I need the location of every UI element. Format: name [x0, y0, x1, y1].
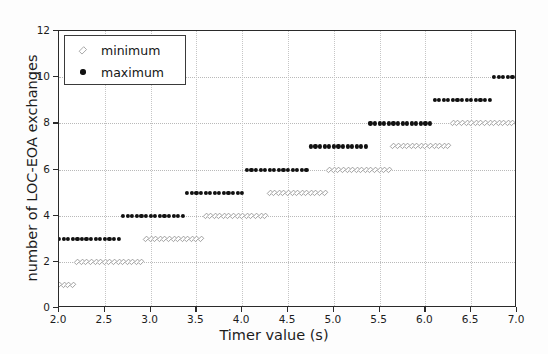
data-point-maximum	[309, 144, 313, 148]
x-axis-tick	[470, 307, 471, 312]
data-point-minimum	[385, 166, 392, 173]
data-point-maximum	[405, 121, 409, 125]
y-axis-tick	[53, 169, 58, 170]
y-axis-tick	[53, 261, 58, 262]
data-point-minimum	[321, 189, 328, 196]
data-point-maximum	[75, 237, 79, 241]
data-point-maximum	[323, 144, 327, 148]
data-point-maximum	[103, 237, 107, 241]
y-axis-tick-label: 6	[20, 163, 50, 175]
data-point-maximum	[497, 75, 501, 79]
chart-figure: minimum maximum Timer value (s) number o…	[0, 0, 548, 354]
x-axis-tick	[104, 307, 105, 312]
data-point-maximum	[378, 121, 382, 125]
data-point-maximum	[158, 214, 162, 218]
data-point-maximum	[71, 237, 75, 241]
data-point-maximum	[199, 190, 203, 194]
y-axis-tick-label: 4	[20, 209, 50, 221]
data-point-maximum	[474, 98, 478, 102]
gridline-horizontal	[59, 123, 515, 124]
x-axis-tick-label: 5.5	[370, 313, 387, 325]
data-point-maximum	[428, 121, 432, 125]
y-axis-tick	[53, 307, 58, 308]
data-point-maximum	[327, 144, 331, 148]
data-point-maximum	[89, 237, 93, 241]
data-point-maximum	[286, 167, 290, 171]
data-point-maximum	[290, 167, 294, 171]
data-point-maximum	[419, 121, 423, 125]
data-point-maximum	[121, 214, 125, 218]
data-point-maximum	[272, 167, 276, 171]
data-point-maximum	[318, 144, 322, 148]
data-point-maximum	[203, 190, 207, 194]
x-axis-tick-label: 6.5	[462, 313, 479, 325]
data-point-maximum	[258, 167, 262, 171]
y-axis-tick	[53, 215, 58, 216]
data-point-maximum	[217, 190, 221, 194]
data-point-maximum	[423, 121, 427, 125]
gridline-vertical	[471, 31, 472, 306]
data-point-maximum	[455, 98, 459, 102]
gridline-vertical	[196, 31, 197, 306]
data-point-maximum	[116, 237, 120, 241]
x-axis-title: Timer value (s)	[0, 327, 548, 343]
data-point-maximum	[84, 237, 88, 241]
data-point-maximum	[254, 167, 258, 171]
data-point-maximum	[437, 98, 441, 102]
data-point-maximum	[112, 237, 116, 241]
data-point-maximum	[414, 121, 418, 125]
data-point-maximum	[181, 214, 185, 218]
y-axis-tick	[53, 76, 58, 77]
y-axis-tick-label: 10	[20, 70, 50, 82]
x-axis-tick	[241, 307, 242, 312]
data-point-maximum	[167, 214, 171, 218]
data-point-maximum	[341, 144, 345, 148]
data-point-maximum	[332, 144, 336, 148]
data-point-maximum	[469, 98, 473, 102]
data-point-maximum	[396, 121, 400, 125]
data-point-maximum	[240, 190, 244, 194]
data-point-maximum	[304, 167, 308, 171]
x-axis-tick-label: 4.0	[233, 313, 250, 325]
data-point-maximum	[130, 214, 134, 218]
x-axis-tick-label: 3.5	[187, 313, 204, 325]
data-point-maximum	[98, 237, 102, 241]
y-axis-tick-label: 0	[20, 301, 50, 313]
data-point-maximum	[190, 190, 194, 194]
y-axis-tick-label: 8	[20, 116, 50, 128]
data-point-maximum	[478, 98, 482, 102]
x-axis-tick-label: 4.5	[279, 313, 296, 325]
x-axis-tick	[424, 307, 425, 312]
data-point-maximum	[245, 167, 249, 171]
data-point-maximum	[501, 75, 505, 79]
diamond-marker-icon	[65, 39, 101, 61]
x-axis-tick	[379, 307, 380, 312]
y-axis-tick	[53, 122, 58, 123]
data-point-maximum	[126, 214, 130, 218]
x-axis-tick-label: 6.0	[416, 313, 433, 325]
data-point-maximum	[336, 144, 340, 148]
data-point-maximum	[300, 167, 304, 171]
data-point-maximum	[432, 98, 436, 102]
x-axis-tick-label: 3.0	[141, 313, 158, 325]
data-point-maximum	[61, 237, 65, 241]
data-point-maximum	[350, 144, 354, 148]
data-point-minimum	[445, 143, 452, 150]
data-point-maximum	[510, 75, 514, 79]
data-point-maximum	[355, 144, 359, 148]
data-point-minimum	[138, 258, 145, 265]
data-point-maximum	[185, 190, 189, 194]
data-point-maximum	[506, 75, 510, 79]
gridline-vertical	[425, 31, 426, 306]
data-point-maximum	[364, 144, 368, 148]
circle-marker-icon	[65, 61, 101, 83]
data-point-maximum	[153, 214, 157, 218]
legend-label-maximum: maximum	[101, 65, 164, 80]
data-point-maximum	[139, 214, 143, 218]
data-point-maximum	[226, 190, 230, 194]
x-axis-tick-label: 7.0	[508, 313, 525, 325]
data-point-maximum	[171, 214, 175, 218]
data-point-maximum	[236, 190, 240, 194]
data-point-maximum	[213, 190, 217, 194]
y-axis-tick-label: 12	[20, 24, 50, 36]
